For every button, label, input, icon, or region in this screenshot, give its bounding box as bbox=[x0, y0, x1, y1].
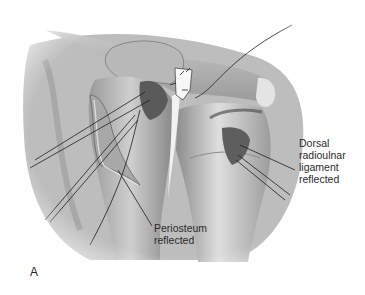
label-dorsal-radioulnar-ligament: Dorsal radioulnar ligament reflected bbox=[299, 137, 346, 185]
label-line: ligament bbox=[299, 161, 346, 173]
panel-letter: A bbox=[30, 265, 38, 279]
label-line: reflected bbox=[299, 173, 346, 185]
label-line: reflected bbox=[154, 234, 207, 246]
label-line: Periosteum bbox=[154, 222, 207, 234]
label-line: radioulnar bbox=[299, 149, 346, 161]
label-line: Dorsal bbox=[299, 137, 346, 149]
label-periosteum: Periosteum reflected bbox=[154, 222, 207, 246]
